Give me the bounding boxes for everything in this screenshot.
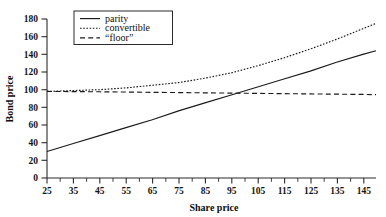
x-axis-tick-labels: 25 35 45 55 65 75 85 95 105 115 125 135 … (42, 186, 371, 196)
bond-price-vs-share-price-chart: 180 160 140 120 100 80 60 40 20 0 (0, 0, 386, 217)
series-parity-line (47, 51, 376, 152)
x-axis-title: Share price (190, 202, 240, 213)
y-axis-ticks (42, 19, 48, 178)
y-tick-label: 20 (29, 156, 39, 166)
y-tick-label: 100 (24, 85, 39, 95)
x-tick-label: 25 (42, 186, 52, 196)
y-tick-label: 120 (24, 67, 39, 77)
x-tick-label: 35 (69, 186, 79, 196)
x-tick-label: 65 (148, 186, 158, 196)
y-tick-label: 80 (29, 103, 39, 113)
x-tick-label: 85 (201, 186, 211, 196)
y-axis-tick-labels: 180 160 140 120 100 80 60 40 20 0 (24, 14, 39, 183)
x-tick-label: 55 (121, 186, 131, 196)
y-axis-title: Bond price (4, 75, 15, 123)
legend: parity convertible “floor” (74, 11, 173, 45)
y-tick-label: 180 (24, 14, 39, 24)
x-tick-label: 75 (174, 186, 184, 196)
chart-figure: 180 160 140 120 100 80 60 40 20 0 (0, 0, 386, 217)
x-tick-label: 125 (304, 186, 319, 196)
x-tick-label: 105 (251, 186, 266, 196)
y-tick-label: 40 (29, 138, 39, 148)
x-tick-label: 95 (227, 186, 237, 196)
series-floor-line (47, 91, 376, 94)
legend-label-floor: “floor” (105, 32, 133, 43)
y-tick-label: 160 (24, 32, 39, 42)
x-axis-ticks (47, 178, 364, 184)
x-tick-label: 135 (330, 186, 345, 196)
y-tick-label: 60 (29, 120, 39, 130)
y-tick-label: 0 (33, 173, 38, 183)
x-tick-label: 115 (278, 186, 292, 196)
x-tick-label: 145 (357, 186, 372, 196)
y-tick-label: 140 (24, 50, 39, 60)
x-tick-label: 45 (95, 186, 105, 196)
